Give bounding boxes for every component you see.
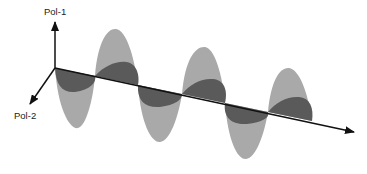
pol2-axis	[30, 68, 55, 104]
polarization-diagram: Pol-1 Pol-2	[0, 0, 367, 174]
pol2-label: Pol-2	[14, 110, 36, 121]
pol1-label: Pol-1	[44, 6, 66, 17]
